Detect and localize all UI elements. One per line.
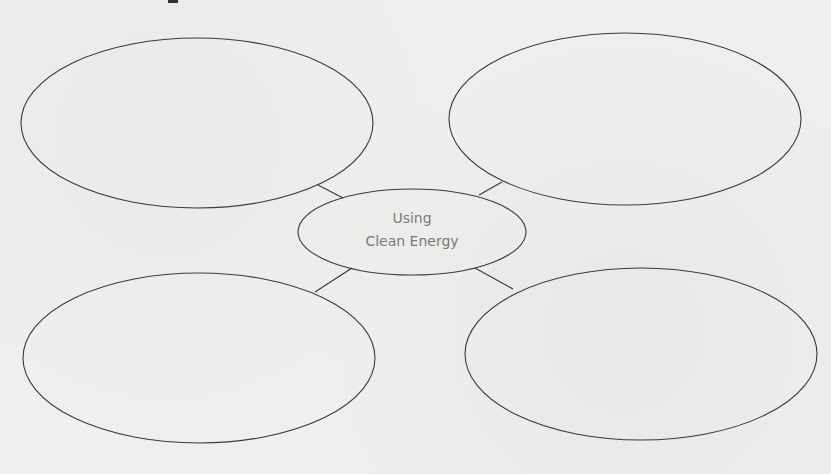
center-topic: Using Clean Energy	[312, 207, 512, 253]
center-topic-line-2: Clean Energy	[312, 230, 512, 253]
connector-top-right	[479, 182, 502, 195]
answer-area-top-left[interactable]	[60, 68, 335, 178]
center-topic-line-1: Using	[312, 207, 512, 230]
answer-area-top-right[interactable]	[488, 64, 763, 174]
connector-bottom-left	[315, 268, 352, 292]
concept-web-worksheet: Using Clean Energy	[0, 0, 831, 474]
answer-area-bottom-left[interactable]	[62, 303, 337, 413]
answer-area-bottom-right[interactable]	[504, 299, 779, 409]
connector-bottom-right	[475, 268, 513, 289]
connector-top-left	[318, 185, 343, 198]
